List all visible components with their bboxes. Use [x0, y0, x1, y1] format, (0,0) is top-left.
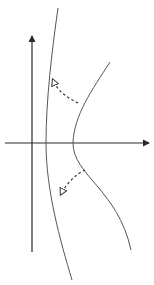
- right-curve: [73, 62, 131, 250]
- diagram-svg: [0, 0, 154, 285]
- lower-dashed-arrow: [61, 170, 85, 194]
- diagram-canvas: [0, 0, 154, 285]
- upper-dashed-arrow: [53, 80, 78, 103]
- left-curve: [46, 8, 72, 280]
